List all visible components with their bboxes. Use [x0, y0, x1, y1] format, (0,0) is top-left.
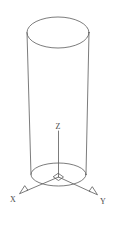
cylinder-axes-diagram: X Y Z — [0, 0, 114, 229]
figure-container: X Y Z — [0, 0, 114, 229]
y-axis-label: Y — [100, 197, 106, 206]
x-axis-label: X — [10, 195, 16, 204]
z-axis-label: Z — [56, 122, 61, 131]
